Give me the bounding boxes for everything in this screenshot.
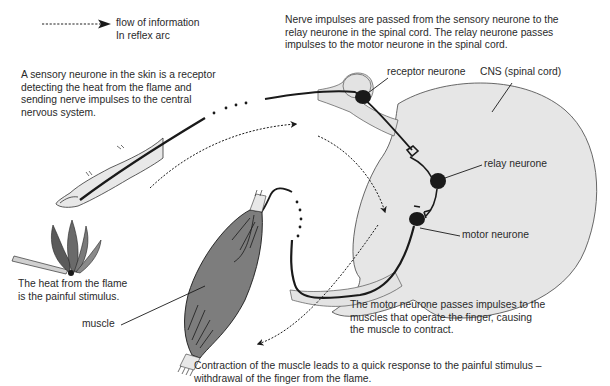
caption-line: relay neurone in the spinal cord. The re… <box>285 27 559 40</box>
finger-shape <box>56 138 163 207</box>
relay-neurone-cell <box>430 173 446 189</box>
muscle-shape <box>178 190 266 376</box>
legend-label-1: flow of information <box>116 17 200 30</box>
caption-line: Contraction of the muscle leads to a qui… <box>194 360 541 373</box>
caption-response: Contraction of the muscle leads to a qui… <box>194 360 541 385</box>
caption-line: detecting the heat from the flame and <box>21 82 216 95</box>
legend-arrow-icon <box>42 20 111 29</box>
label-muscle: muscle <box>82 318 115 331</box>
caption-relay: Nerve impulses are passed from the senso… <box>285 14 559 52</box>
caption-line: A sensory neurone in the skin is a recep… <box>21 69 216 82</box>
flame-icon <box>12 220 101 276</box>
caption-stimulus: The heat from the flame is the painful s… <box>18 278 127 303</box>
legend-text: flow of information In reflex arc <box>116 17 200 42</box>
caption-line: muscles that operate the finger, causing <box>350 312 545 325</box>
caption-line: is the painful stimulus. <box>18 291 127 304</box>
reflex-arc-diagram: flow of information In reflex arc A sens… <box>0 0 610 386</box>
caption-sensory: A sensory neurone in the skin is a recep… <box>21 69 216 119</box>
legend-label-2: In reflex arc <box>116 30 200 43</box>
caption-line: The motor neurone passes impulses to the <box>350 299 545 312</box>
label-cns: CNS (spinal cord) <box>480 66 561 79</box>
caption-line: The heat from the flame <box>18 278 127 291</box>
caption-motor: The motor neurone passes impulses to the… <box>350 299 545 337</box>
caption-line: impulses to the motor neurone in the spi… <box>285 39 559 52</box>
caption-line: Nerve impulses are passed from the senso… <box>285 14 559 27</box>
caption-line: the muscle to contract. <box>350 324 545 337</box>
label-motor-neurone: motor neurone <box>462 229 529 242</box>
label-receptor-neurone: receptor neurone <box>387 66 465 79</box>
caption-line: nervous system. <box>21 107 216 120</box>
motor-neurone-cell <box>409 212 425 226</box>
label-relay-neurone: relay neurone <box>484 158 547 171</box>
dorsal-root-shape <box>318 73 398 136</box>
caption-line: withdrawal of the finger from the flame. <box>194 373 541 386</box>
caption-line: sending nerve impulses to the central <box>21 94 216 107</box>
